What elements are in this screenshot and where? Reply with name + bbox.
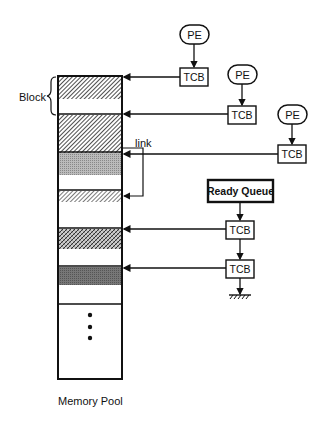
link-label: link (135, 137, 152, 149)
memory-block-4-fill (59, 191, 122, 202)
block-brace-icon (47, 77, 56, 115)
memory-pool-label: Memory Pool (58, 395, 123, 407)
link-connector (122, 148, 143, 196)
ellipsis-dot (88, 336, 92, 340)
ellipsis-dot (88, 313, 92, 317)
ground-icon (229, 295, 251, 299)
pe-label: PE (285, 109, 300, 121)
memory-block-1-fill (59, 77, 122, 99)
memory-block-6-fill (59, 267, 122, 285)
memory-block-5-fill (59, 229, 122, 249)
pe-label: PE (235, 69, 250, 81)
ready-queue-label: Ready Queue (207, 185, 274, 197)
tcb-label: TCB (184, 71, 205, 83)
memory-block-2-fill (59, 115, 122, 153)
tcb-label: TCB (230, 224, 251, 236)
ready-queue-group: Ready Queue TCB TCB (124, 180, 274, 299)
memory-pool (58, 76, 122, 379)
block-label: Block (19, 91, 46, 103)
tcb-label: TCB (232, 109, 253, 121)
tcb-label: TCB (282, 148, 303, 160)
memory-block-3-fill (59, 153, 122, 175)
ellipsis-dot (88, 325, 92, 329)
tcb-label: TCB (230, 263, 251, 275)
memory-pool-diagram: Block link PE TCB PE TCB PE TCB Ready Qu… (0, 0, 323, 426)
pe-label: PE (187, 29, 202, 41)
pe-group-1: PE TCB (124, 25, 209, 86)
